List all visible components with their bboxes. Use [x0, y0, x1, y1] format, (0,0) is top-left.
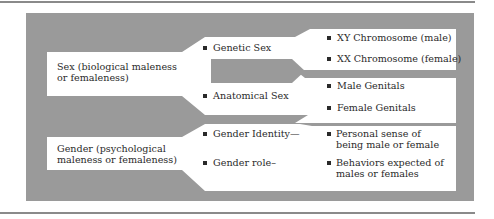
female-genitals-label: Female Genitals	[337, 102, 416, 113]
genetic-sex-label: Genetic Sex	[213, 42, 271, 53]
sex-label-line1: Sex (biological maleness	[57, 61, 177, 72]
gender-identity-item: Gender Identity—	[203, 128, 300, 139]
gender-role-detail: Behaviors expected of males or females	[327, 157, 444, 179]
gender-identity-detail: Personal sense of being male or female	[327, 128, 439, 150]
gender-role-detail-line2: males or females	[336, 168, 444, 179]
male-genitals-label: Male Genitals	[337, 80, 405, 91]
male-genitals-item: Male Genitals	[327, 80, 405, 91]
genetic-sex-item: Genetic Sex	[203, 42, 271, 53]
gender-role-detail-line1: Behaviors expected of	[336, 157, 444, 168]
xx-chromosome-item: XX Chromosome (female)	[327, 53, 461, 64]
gender-role-item: Gender role–	[203, 157, 276, 168]
gender-label-line2: maleness or femaleness)	[57, 154, 177, 165]
gender-role-label: Gender role–	[213, 157, 276, 168]
xy-chromosome-label: XY Chromosome (male)	[337, 32, 452, 43]
sex-label: Sex (biological maleness or femaleness)	[57, 61, 177, 83]
anatomical-sex-item: Anatomical Sex	[203, 90, 289, 101]
sex-label-line2: or femaleness)	[57, 72, 177, 83]
gender-label: Gender (psychological maleness or female…	[57, 143, 177, 165]
gender-identity-label: Gender Identity—	[213, 128, 300, 139]
gender-identity-detail-line1: Personal sense of	[336, 128, 439, 139]
gender-identity-detail-line2: being male or female	[336, 139, 439, 150]
sex-divider-notch	[211, 59, 305, 83]
anatomical-sex-label: Anatomical Sex	[213, 90, 289, 101]
xy-chromosome-item: XY Chromosome (male)	[327, 32, 452, 43]
gender-label-line1: Gender (psychological	[57, 143, 177, 154]
female-genitals-item: Female Genitals	[327, 102, 416, 113]
xx-chromosome-label: XX Chromosome (female)	[337, 53, 461, 64]
